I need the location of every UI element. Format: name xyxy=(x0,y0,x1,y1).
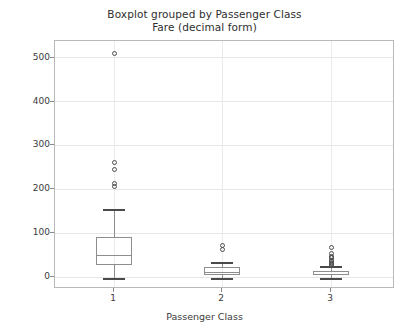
outlier-point xyxy=(329,245,334,250)
outlier-point xyxy=(329,251,334,256)
gridline-300 xyxy=(55,145,393,146)
box-iqr xyxy=(96,237,132,265)
gridline-200 xyxy=(55,189,393,190)
x-axis-tick-mark-2 xyxy=(221,288,222,292)
outlier-point xyxy=(112,181,117,186)
whisker-lower xyxy=(114,265,115,278)
boxplot-figure: Boxplot grouped by Passenger Class Fare … xyxy=(0,0,409,333)
y-axis-tick-label-0: 0 xyxy=(0,271,50,281)
median-line xyxy=(313,274,349,275)
cap-upper xyxy=(103,209,125,211)
y-axis-tick-label-100: 100 xyxy=(0,227,50,237)
cap-lower xyxy=(211,278,233,280)
chart-title-sub: Fare (decimal form) xyxy=(0,21,409,34)
x-axis-tick-label-3: 3 xyxy=(310,293,350,303)
cap-lower xyxy=(320,278,342,280)
y-axis-tick-label-400: 400 xyxy=(0,96,50,106)
x-axis-tick-mark-1 xyxy=(113,288,114,292)
cap-upper xyxy=(211,262,233,264)
gridline-500 xyxy=(55,57,393,58)
whisker-upper xyxy=(114,209,115,237)
chart-title: Boxplot grouped by Passenger Class Fare … xyxy=(0,8,409,34)
x-axis-tick-label-1: 1 xyxy=(93,293,133,303)
x-axis-tick-mark-3 xyxy=(330,288,331,292)
x-axis-label: Passenger Class xyxy=(0,311,409,322)
plot-area xyxy=(54,40,394,288)
box-iqr xyxy=(204,267,240,275)
gridline-400 xyxy=(55,101,393,102)
y-axis-tick-label-300: 300 xyxy=(0,139,50,149)
median-line xyxy=(96,255,132,256)
gridline-100 xyxy=(55,233,393,234)
cap-lower xyxy=(103,278,125,280)
outlier-point xyxy=(112,167,117,172)
outlier-point xyxy=(112,160,117,165)
y-axis-tick-label-200: 200 xyxy=(0,183,50,193)
x-axis-tick-label-2: 2 xyxy=(201,293,241,303)
chart-title-main: Boxplot grouped by Passenger Class xyxy=(0,8,409,21)
outlier-point xyxy=(112,51,117,56)
y-axis-tick-label-500: 500 xyxy=(0,52,50,62)
median-line xyxy=(204,272,240,273)
